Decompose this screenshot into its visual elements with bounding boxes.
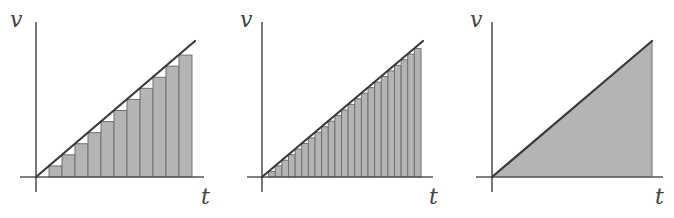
riemann-bar xyxy=(401,60,408,177)
riemann-bar xyxy=(375,82,382,177)
riemann-bar xyxy=(295,149,302,177)
riemann-bar xyxy=(322,127,329,177)
riemann-bar xyxy=(49,166,62,177)
riemann-bar xyxy=(335,116,342,177)
riemann-bar xyxy=(388,71,395,177)
riemann-bar xyxy=(368,88,375,177)
riemann-bar xyxy=(328,121,335,177)
figure-canvas: v t v t v t xyxy=(0,0,674,218)
riemann-bar xyxy=(140,88,153,177)
x-axis-label: t xyxy=(429,184,438,209)
riemann-bar xyxy=(395,65,402,177)
riemann-bars xyxy=(269,49,421,177)
riemann-bar xyxy=(269,171,276,177)
riemann-bar xyxy=(275,166,282,177)
x-axis-label: t xyxy=(201,184,210,209)
riemann-bar xyxy=(381,77,388,178)
riemann-bar xyxy=(179,55,192,177)
riemann-bars xyxy=(49,55,192,177)
riemann-bar xyxy=(408,54,415,177)
y-axis-label: v xyxy=(240,7,253,32)
riemann-bar xyxy=(355,99,362,177)
riemann-bar xyxy=(342,110,349,177)
riemann-bar xyxy=(414,49,421,177)
x-axis-label: t xyxy=(655,184,664,209)
panel-2-fine-rectangles: v t xyxy=(240,7,438,209)
riemann-bar xyxy=(289,155,296,177)
riemann-bar xyxy=(348,104,355,177)
riemann-bar xyxy=(114,111,127,178)
y-axis-label: v xyxy=(10,7,23,32)
riemann-bar xyxy=(361,93,368,177)
riemann-bar xyxy=(282,160,289,177)
riemann-bar xyxy=(75,144,88,177)
riemann-bar xyxy=(315,132,322,177)
riemann-bar xyxy=(101,122,114,177)
riemann-bar xyxy=(62,155,75,177)
riemann-bar xyxy=(88,133,101,177)
y-axis-label: v xyxy=(470,7,483,32)
panel-1-coarse-rectangles: v t xyxy=(10,7,210,209)
riemann-bar xyxy=(166,66,179,177)
riemann-bar xyxy=(308,138,315,177)
riemann-bar xyxy=(302,144,309,178)
panel-3-exact-area: v t xyxy=(470,7,664,209)
riemann-bar xyxy=(153,77,166,177)
riemann-bar xyxy=(127,99,140,177)
